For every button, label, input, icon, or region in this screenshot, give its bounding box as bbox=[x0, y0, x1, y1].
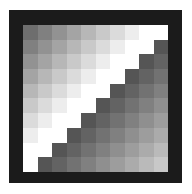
grid-cell bbox=[139, 69, 154, 84]
grid-cell bbox=[81, 54, 96, 69]
grid-cell bbox=[154, 98, 169, 113]
grid-cell bbox=[154, 69, 169, 84]
grid-cell bbox=[139, 98, 154, 113]
grid-cell bbox=[110, 128, 125, 143]
grid-cell bbox=[38, 128, 53, 143]
grid-cell bbox=[96, 98, 111, 113]
grid-cell bbox=[110, 143, 125, 158]
grid-cell bbox=[23, 128, 38, 143]
grid-cell bbox=[23, 84, 38, 99]
grid-cell bbox=[125, 98, 140, 113]
grid-cell bbox=[96, 157, 111, 172]
grid-cell bbox=[38, 143, 53, 158]
grid-cell bbox=[81, 113, 96, 128]
grid-cell bbox=[52, 69, 67, 84]
grid-cell bbox=[110, 40, 125, 55]
grid-cell bbox=[81, 143, 96, 158]
grid-cell bbox=[23, 157, 38, 172]
grid-cell bbox=[154, 40, 169, 55]
grid-cell bbox=[96, 69, 111, 84]
grid-cell bbox=[67, 143, 82, 158]
grid-cell bbox=[139, 84, 154, 99]
grid-cell bbox=[67, 113, 82, 128]
grid-cell bbox=[154, 128, 169, 143]
grid-cell bbox=[38, 69, 53, 84]
grid-cell bbox=[67, 54, 82, 69]
grid-cell bbox=[125, 25, 140, 40]
grid-cell bbox=[38, 40, 53, 55]
grid-cell bbox=[125, 113, 140, 128]
grid-cell bbox=[52, 40, 67, 55]
grid-cell bbox=[139, 25, 154, 40]
grayscale-gradient-grid bbox=[23, 25, 168, 172]
grid-cell bbox=[139, 54, 154, 69]
grid-cell bbox=[110, 69, 125, 84]
grid-cell bbox=[154, 113, 169, 128]
grid-cell bbox=[154, 54, 169, 69]
grid-cell bbox=[81, 69, 96, 84]
grid-cell bbox=[139, 128, 154, 143]
grid-cell bbox=[139, 40, 154, 55]
grid-cell bbox=[139, 157, 154, 172]
grid-cell bbox=[96, 40, 111, 55]
grid-cell bbox=[96, 84, 111, 99]
grid-cell bbox=[154, 143, 169, 158]
grid-cell bbox=[81, 157, 96, 172]
grid-cell bbox=[23, 113, 38, 128]
grid-cell bbox=[139, 113, 154, 128]
grid-cell bbox=[52, 113, 67, 128]
grid-cell bbox=[67, 157, 82, 172]
grid-cell bbox=[67, 128, 82, 143]
grid-cell bbox=[154, 25, 169, 40]
grayscale-grid-frame bbox=[9, 10, 182, 183]
grid-cell bbox=[96, 54, 111, 69]
grid-cell bbox=[81, 40, 96, 55]
grid-cell bbox=[96, 143, 111, 158]
grid-cell bbox=[154, 84, 169, 99]
grid-cell bbox=[23, 40, 38, 55]
grid-cell bbox=[125, 69, 140, 84]
grid-cell bbox=[96, 113, 111, 128]
grid-cell bbox=[52, 84, 67, 99]
grid-cell bbox=[67, 98, 82, 113]
grid-cell bbox=[154, 157, 169, 172]
grid-cell bbox=[23, 69, 38, 84]
grid-cell bbox=[110, 25, 125, 40]
grid-cell bbox=[110, 84, 125, 99]
grid-cell bbox=[67, 84, 82, 99]
grid-cell bbox=[125, 84, 140, 99]
grid-cell bbox=[67, 25, 82, 40]
grid-cell bbox=[38, 54, 53, 69]
grid-cell bbox=[52, 54, 67, 69]
grid-cell bbox=[23, 25, 38, 40]
grid-cell bbox=[67, 69, 82, 84]
grid-cell bbox=[81, 128, 96, 143]
grid-cell bbox=[52, 143, 67, 158]
grid-cell bbox=[81, 25, 96, 40]
grid-cell bbox=[96, 25, 111, 40]
grid-cell bbox=[52, 98, 67, 113]
grid-cell bbox=[110, 113, 125, 128]
grid-cell bbox=[38, 84, 53, 99]
grid-cell bbox=[23, 98, 38, 113]
grid-cell bbox=[52, 157, 67, 172]
grid-cell bbox=[96, 128, 111, 143]
grid-cell bbox=[52, 25, 67, 40]
grid-cell bbox=[139, 143, 154, 158]
grid-cell bbox=[125, 54, 140, 69]
grid-cell bbox=[38, 25, 53, 40]
grid-cell bbox=[110, 98, 125, 113]
grid-cell bbox=[38, 98, 53, 113]
grid-cell bbox=[52, 128, 67, 143]
grid-cell bbox=[81, 84, 96, 99]
grid-cell bbox=[81, 98, 96, 113]
grid-cell bbox=[110, 157, 125, 172]
grid-cell bbox=[125, 157, 140, 172]
grid-cell bbox=[125, 128, 140, 143]
grid-cell bbox=[125, 143, 140, 158]
grid-cell bbox=[67, 40, 82, 55]
grid-cell bbox=[110, 54, 125, 69]
grid-cell bbox=[23, 143, 38, 158]
grid-cell bbox=[38, 113, 53, 128]
grid-cell bbox=[23, 54, 38, 69]
